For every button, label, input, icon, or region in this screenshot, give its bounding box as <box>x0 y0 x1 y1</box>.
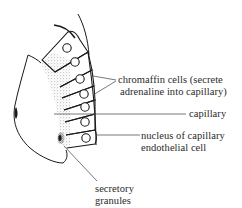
cell-illustration <box>0 0 242 208</box>
label-chromaffin-line2: adrenaline into capillary) <box>118 86 227 98</box>
label-capillary: capillary <box>189 108 226 120</box>
label-granules-line1: secretory <box>95 183 134 195</box>
label-nucleus-line2: endothelial cell <box>141 142 225 154</box>
secretory-granules-zone <box>41 52 70 148</box>
diagram-canvas: chromaffin cells (secrete adrenaline int… <box>0 0 242 208</box>
label-chromaffin-line1: chromaffin cells (secrete <box>118 74 227 86</box>
label-endothelial-nucleus: nucleus of capillary endothelial cell <box>141 130 225 154</box>
label-granules-line2: granules <box>95 195 134 207</box>
label-nucleus-line1: nucleus of capillary <box>141 130 225 142</box>
label-secretory-granules: secretory granules <box>95 183 134 207</box>
endothelial-nucleus-shape <box>15 107 18 119</box>
label-chromaffin-cells: chromaffin cells (secrete adrenaline int… <box>118 74 227 98</box>
